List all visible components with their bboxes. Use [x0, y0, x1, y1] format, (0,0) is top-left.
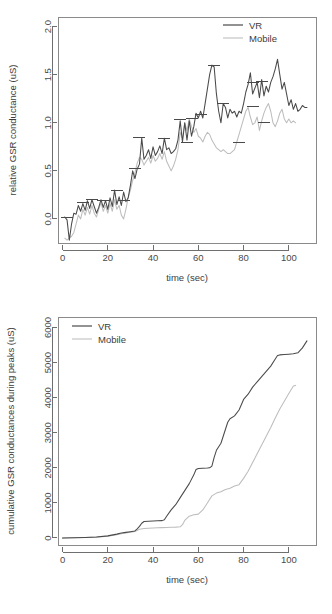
x-tick-label: 80 — [238, 554, 249, 565]
x-tick-label: 20 — [103, 252, 114, 263]
series-line-mobile — [63, 385, 296, 538]
x-tick-label: 60 — [193, 554, 204, 565]
y-tick-label: 2.0 — [43, 20, 54, 33]
y-tick-label: 2000 — [43, 457, 54, 478]
y-tick-label: 4000 — [43, 387, 54, 408]
y-axis-title: cumulative GSR conductances during peaks… — [5, 327, 16, 535]
series-line-vr — [63, 341, 307, 538]
x-tick-label: 100 — [281, 252, 297, 263]
y-tick-label: 0 — [43, 535, 54, 540]
x-tick-label: 20 — [103, 554, 114, 565]
figure-cumulative-gsr-conductances: 0100020003000400050006000020406080100tim… — [0, 300, 332, 614]
legend-label-mobile: Mobile — [98, 334, 126, 345]
legend: VRMobile — [223, 20, 277, 44]
legend-label-vr: VR — [98, 321, 111, 332]
x-axis-title: time (sec) — [166, 272, 208, 283]
x-tick-label: 40 — [148, 554, 159, 565]
chart-cumulative-gsr-conductances: 0100020003000400050006000020406080100tim… — [0, 300, 332, 614]
plot-box — [58, 317, 316, 545]
legend-label-mobile: Mobile — [249, 33, 277, 44]
x-tick-label: 60 — [193, 252, 204, 263]
y-tick-label: 1.5 — [43, 68, 54, 81]
figure-relative-gsr-conductance: 0.00.51.01.52.0020406080100time (sec)rel… — [0, 0, 332, 300]
y-tick-label: 1.0 — [43, 116, 54, 129]
y-tick-label: 0.0 — [43, 212, 54, 225]
x-tick-label: 40 — [148, 252, 159, 263]
x-tick-label: 0 — [60, 252, 65, 263]
x-tick-label: 100 — [281, 554, 297, 565]
y-tick-label: 5000 — [43, 352, 54, 373]
y-axis-title: relative GSR conductance (uS) — [7, 65, 18, 196]
y-tick-label: 6000 — [43, 317, 54, 338]
legend-label-vr: VR — [249, 20, 262, 31]
y-tick-label: 3000 — [43, 422, 54, 443]
legend: VRMobile — [72, 321, 126, 345]
x-tick-label: 80 — [238, 252, 249, 263]
x-tick-label: 0 — [60, 554, 65, 565]
x-axis-title: time (sec) — [166, 574, 208, 585]
series-line-vr — [65, 59, 307, 240]
y-tick-label: 0.5 — [43, 164, 54, 177]
chart-relative-gsr-conductance: 0.00.51.01.52.0020406080100time (sec)rel… — [0, 0, 332, 300]
y-tick-label: 1000 — [43, 492, 54, 513]
